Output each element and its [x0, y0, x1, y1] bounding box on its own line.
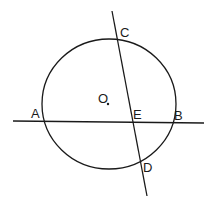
- point-label-a: A: [31, 106, 40, 121]
- center-label-o: O: [98, 91, 108, 106]
- point-label-b: B: [174, 108, 183, 123]
- point-label-e: E: [133, 107, 142, 122]
- point-label-c: C: [120, 25, 129, 40]
- geometry-diagram: A B C D E O: [0, 0, 212, 209]
- point-label-d: D: [143, 160, 152, 175]
